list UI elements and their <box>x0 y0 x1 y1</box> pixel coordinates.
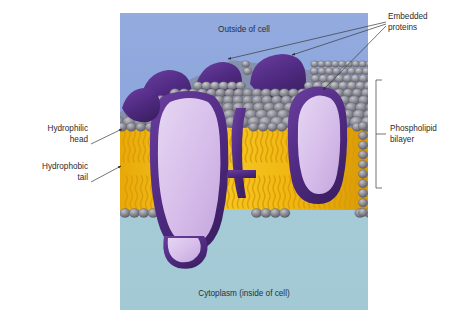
phospholipid-head <box>366 61 374 67</box>
callout-hydrophilic-head: Hydrophilic head <box>48 124 123 144</box>
phospholipid-head <box>358 208 367 216</box>
phospholipid-head <box>242 61 250 67</box>
callout-phospholipid-bilayer: Phospholipid bilayer <box>376 80 437 188</box>
cytoplasm-label: Cytoplasm (inside of cell) <box>198 289 290 298</box>
phospholipid-head <box>258 123 268 132</box>
embedded-proteins-label-line1: Embedded <box>388 12 428 21</box>
phospholipid-bilayer-label-line1: Phospholipid <box>390 124 437 133</box>
phospholipid-head <box>358 170 367 178</box>
phospholipid-head <box>267 123 277 132</box>
phospholipid-head <box>370 68 379 75</box>
phospholipid-head <box>129 209 139 218</box>
hydrophilic-head-label-line1: Hydrophilic <box>48 124 89 133</box>
phospholipid-head <box>270 209 280 218</box>
phospholipid-head <box>261 209 271 218</box>
phospholipid-head <box>243 68 252 75</box>
cell-membrane-diagram: Outside of cell Cytoplasm (inside of cel… <box>0 0 460 323</box>
phospholipid-head <box>358 160 367 168</box>
phospholipid-head <box>136 123 146 132</box>
phospholipid-head <box>368 96 379 105</box>
phospholipid-head <box>280 209 290 218</box>
phospholipid-head <box>358 199 367 207</box>
callout-hydrophobic-tail: Hydrophobic tail <box>42 162 121 182</box>
phospholipid-bilayer-label-line2: bilayer <box>390 135 414 144</box>
hydrophilic-head-label-line2: head <box>70 135 89 144</box>
hydrophilic-head-leader <box>91 129 122 144</box>
phospholipid-head <box>251 209 261 218</box>
phospholipid-head <box>277 123 287 132</box>
phospholipid-head <box>139 209 149 218</box>
phospholipid-head <box>367 75 376 83</box>
phospholipid-head <box>358 141 367 149</box>
embedded-proteins-label-line2: proteins <box>388 23 417 32</box>
hydrophobic-tail-label-line1: Hydrophobic <box>42 162 88 171</box>
outside-of-cell-label: Outside of cell <box>218 25 270 34</box>
phospholipid-head <box>358 131 367 139</box>
phospholipid-head <box>249 123 259 132</box>
phospholipid-head <box>358 189 367 197</box>
phospholipid-head <box>358 179 367 187</box>
phospholipid-head <box>370 89 381 98</box>
phospholipid-head <box>358 122 367 130</box>
phospholipid-head <box>358 151 367 159</box>
phospholipid-head <box>120 209 130 218</box>
hydrophobic-tail-label-line2: tail <box>78 173 89 182</box>
phospholipid-head <box>117 123 127 132</box>
phospholipid-head <box>362 68 371 75</box>
hydrophobic-tail-leader <box>91 166 121 182</box>
phospholipid-head <box>372 117 385 128</box>
embedded-protein-right <box>288 86 347 204</box>
phospholipid-head <box>236 82 246 90</box>
phospholipid-head <box>126 123 136 132</box>
